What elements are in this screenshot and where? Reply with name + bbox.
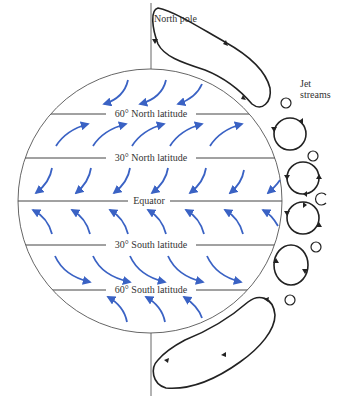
- circulation-cells: [153, 8, 319, 388]
- cell-north-hadley-upper: [287, 162, 319, 194]
- circulation-diagram: North pole 60° North latitude 30° North …: [0, 0, 346, 399]
- equator-label: Equator: [133, 195, 165, 206]
- cell-north-ferrel: [274, 118, 306, 150]
- lat-60n-label: 60° North latitude: [115, 108, 188, 119]
- jet-streams-label-2: streams: [300, 89, 331, 100]
- lat-30s-label: 30° South latitude: [115, 239, 188, 250]
- lat-30n-label: 30° North latitude: [115, 152, 188, 163]
- south-polar-cell: [153, 298, 275, 389]
- jet-streams-label-1: Jet: [300, 78, 311, 89]
- cell-south-ferrel: [274, 245, 308, 285]
- lat-60s-label: 60° South latitude: [115, 284, 188, 295]
